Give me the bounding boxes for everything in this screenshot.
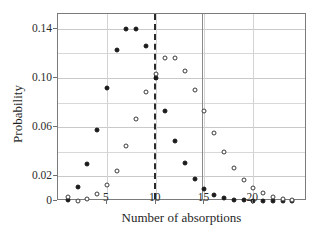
y-gridline xyxy=(58,176,305,177)
data-point-open-circles xyxy=(231,166,236,171)
data-point-open-circles xyxy=(280,196,285,201)
data-point-filled-circles xyxy=(222,196,227,201)
y-tick-mark xyxy=(53,175,57,176)
x-tick-mark xyxy=(203,200,204,204)
x-tick-mark xyxy=(106,200,107,204)
data-point-open-circles xyxy=(95,192,100,197)
data-point-open-circles xyxy=(182,69,187,74)
data-point-open-circles xyxy=(143,90,148,95)
data-point-open-circles xyxy=(290,198,295,203)
data-point-filled-circles xyxy=(192,177,197,182)
data-point-filled-circles xyxy=(143,43,148,48)
data-point-open-circles xyxy=(153,71,158,76)
data-point-filled-circles xyxy=(163,108,168,113)
data-point-filled-circles xyxy=(134,26,139,31)
x-gridline xyxy=(107,14,108,199)
data-point-filled-circles xyxy=(95,128,100,133)
dashed-vertical-line xyxy=(154,14,156,199)
chart-figure: 00.020.060.100.14 5101520 Number of abso… xyxy=(0,0,322,245)
y-gridline-minor xyxy=(58,53,305,54)
plot-area xyxy=(57,13,306,200)
y-tick-mark xyxy=(53,126,57,127)
y-gridline xyxy=(58,78,305,79)
data-point-filled-circles xyxy=(231,197,236,202)
y-gridline-minor xyxy=(58,103,305,104)
data-point-open-circles xyxy=(124,143,129,148)
data-point-open-circles xyxy=(104,183,109,188)
y-tick-mark xyxy=(53,77,57,78)
y-tick-label: 0.14 xyxy=(32,22,52,34)
data-point-open-circles xyxy=(75,198,80,203)
solid-vertical-line xyxy=(202,14,203,199)
data-point-open-circles xyxy=(85,196,90,201)
y-gridline-minor xyxy=(58,152,305,153)
y-tick-label: 0.02 xyxy=(32,169,52,181)
y-tick-mark xyxy=(53,200,57,201)
data-point-open-circles xyxy=(270,194,275,199)
data-point-filled-circles xyxy=(114,48,119,53)
data-point-open-circles xyxy=(134,117,139,122)
data-point-open-circles xyxy=(222,149,227,154)
y-tick-label: 0.10 xyxy=(32,71,52,83)
data-point-open-circles xyxy=(251,185,256,190)
data-point-filled-circles xyxy=(241,198,246,203)
data-point-open-circles xyxy=(65,195,70,200)
data-point-open-circles xyxy=(241,178,246,183)
y-tick-label: 0 xyxy=(46,194,52,206)
y-gridline xyxy=(58,29,305,30)
x-tick-mark xyxy=(155,200,156,204)
data-point-filled-circles xyxy=(212,192,217,197)
data-point-open-circles xyxy=(173,56,178,61)
x-gridline xyxy=(204,14,205,199)
data-point-filled-circles xyxy=(75,185,80,190)
x-gridline xyxy=(253,14,254,199)
data-point-open-circles xyxy=(212,131,217,136)
y-tick-label: 0.06 xyxy=(32,120,52,132)
data-point-filled-circles xyxy=(173,138,178,143)
x-axis-label: Number of absorptions xyxy=(57,210,306,226)
data-point-open-circles xyxy=(261,191,266,196)
data-point-open-circles xyxy=(192,87,197,92)
x-tick-mark xyxy=(252,200,253,204)
data-point-filled-circles xyxy=(261,198,266,203)
data-point-open-circles xyxy=(114,169,119,174)
data-point-open-circles xyxy=(163,56,168,61)
data-point-filled-circles xyxy=(104,85,109,90)
data-point-filled-circles xyxy=(124,26,129,31)
data-point-open-circles xyxy=(202,109,207,114)
y-tick-mark xyxy=(53,28,57,29)
data-point-filled-circles xyxy=(153,75,158,80)
data-point-filled-circles xyxy=(182,161,187,166)
data-point-filled-circles xyxy=(85,162,90,167)
y-axis-label: Probability xyxy=(10,54,26,174)
